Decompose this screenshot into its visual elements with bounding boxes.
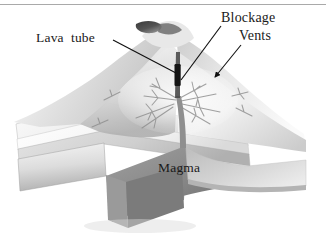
label-blockage: Blockage <box>221 11 275 26</box>
volcano-diagram: Lava tube Blockage Vents Magma <box>0 0 326 247</box>
crater-opening-icon <box>136 21 162 33</box>
terrain-block <box>14 21 306 233</box>
label-magma: Magma <box>158 161 200 175</box>
label-lava-tube: Lava tube <box>36 31 95 45</box>
ground-shadow <box>84 219 196 233</box>
label-vents: Vents <box>239 29 271 44</box>
blockage-plug <box>175 64 181 86</box>
